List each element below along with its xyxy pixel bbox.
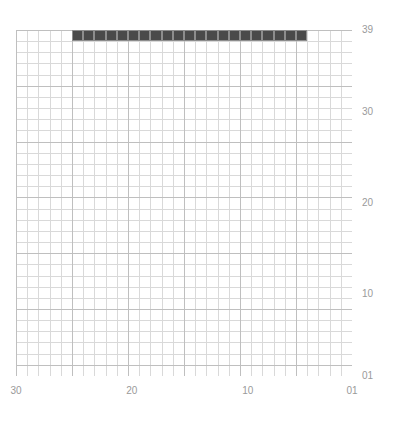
grid-cell <box>94 30 105 41</box>
grid-cell <box>117 30 128 41</box>
pixel-grid-figure: 3930201001 30201001 <box>0 0 399 423</box>
grid-cell <box>150 30 161 41</box>
x-tick-label: 01 <box>337 386 367 396</box>
grid-cell <box>195 30 206 41</box>
grid-cell <box>218 30 229 41</box>
grid-cell <box>262 30 273 41</box>
y-tick-label: 30 <box>362 107 373 117</box>
grid-cell <box>206 30 217 41</box>
y-tick-label: 20 <box>362 198 373 208</box>
y-tick-label: 39 <box>362 25 373 35</box>
grid-cell <box>106 30 117 41</box>
x-tick-label: 30 <box>1 386 31 396</box>
grid-cell <box>296 30 307 41</box>
grid-cell <box>274 30 285 41</box>
grid-cell <box>251 30 262 41</box>
x-tick-label: 10 <box>233 386 263 396</box>
grid-cell <box>139 30 150 41</box>
y-tick-label: 10 <box>362 289 373 299</box>
grid-cell <box>184 30 195 41</box>
x-tick-label: 20 <box>117 386 147 396</box>
y-tick-label: 01 <box>362 371 373 381</box>
filled-cell-layer <box>16 30 352 376</box>
grid-cell <box>162 30 173 41</box>
grid-cell <box>83 30 94 41</box>
plot-area <box>16 30 352 376</box>
grid-cell <box>240 30 251 41</box>
grid-cell <box>173 30 184 41</box>
grid-cell <box>285 30 296 41</box>
grid-cell <box>229 30 240 41</box>
grid-cell <box>72 30 83 41</box>
grid-cell <box>128 30 139 41</box>
